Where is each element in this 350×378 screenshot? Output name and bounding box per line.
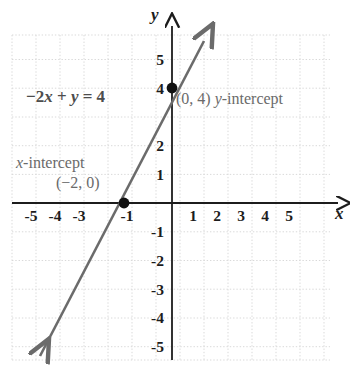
y-axis-label: y — [151, 6, 159, 23]
y-tick-label: 2 — [148, 138, 164, 154]
graph-figure: -5 -4 -3 -1 1 2 3 4 5 5 4 2 1 -1 -2 -3 -… — [0, 0, 350, 378]
x-intercept-label: x-intercept — [16, 155, 84, 172]
y-intercept-var: y — [215, 90, 222, 107]
x-tick-label: 2 — [210, 208, 224, 224]
y-tick-label: 4 — [148, 81, 164, 97]
y-tick-label: 5 — [148, 52, 164, 68]
equation-plus: + — [53, 87, 71, 106]
x-tick-label: 3 — [234, 208, 248, 224]
axis-lines — [12, 26, 338, 360]
equation-equals: = 4 — [78, 87, 105, 106]
x-intercept-coordinates: (−2, 0) — [56, 175, 100, 192]
y-tick-label: -2 — [138, 253, 164, 269]
coordinate-plane — [0, 0, 350, 378]
x-tick-label: 4 — [258, 208, 272, 224]
x-tick-label: 5 — [282, 208, 296, 224]
x-tick-label: -5 — [20, 208, 42, 224]
x-axis-label: x — [335, 205, 344, 222]
y-intercept-suffix: -intercept — [222, 90, 283, 107]
y-tick-label: -5 — [138, 339, 164, 355]
y-tick-label: 1 — [148, 167, 164, 183]
y-tick-label: -4 — [138, 310, 164, 326]
x-tick-label: -3 — [68, 208, 90, 224]
equation-coefficient: −2 — [26, 87, 44, 106]
x-intercept-suffix: -intercept — [23, 154, 84, 171]
x-tick-label: -4 — [44, 208, 66, 224]
y-tick-label: -1 — [138, 224, 164, 240]
y-tick-label: -3 — [138, 282, 164, 298]
equation-x-var: x — [44, 87, 53, 106]
y-intercept-label: (0, 4) y-intercept — [176, 91, 283, 108]
y-intercept-coordinates: (0, 4) — [176, 90, 215, 107]
equation-label: −2x + y = 4 — [26, 88, 105, 106]
x-tick-label: -1 — [116, 208, 138, 224]
x-tick-label: 1 — [186, 208, 200, 224]
